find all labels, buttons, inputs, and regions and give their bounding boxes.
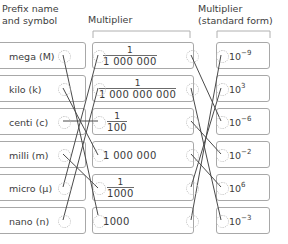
connector-node-right-3[interactable] [216, 149, 229, 162]
connector-node-mid-left-3[interactable] [93, 149, 106, 162]
connector-node-mid-left-1[interactable] [93, 83, 106, 96]
connector-node-left-2[interactable] [58, 116, 71, 129]
connector-node-right-1[interactable] [216, 83, 229, 96]
connector-node-mid-right-1[interactable] [186, 83, 199, 96]
connector-node-right-2[interactable] [216, 116, 229, 129]
matching-lines [0, 0, 288, 244]
connector-node-mid-left-5[interactable] [93, 215, 106, 228]
connector-node-left-4[interactable] [58, 182, 71, 195]
matching-worksheet: Prefix name and symbol Multiplier Multip… [0, 0, 288, 244]
connector-node-left-3[interactable] [58, 149, 71, 162]
connector-node-left-5[interactable] [58, 215, 71, 228]
connector-node-mid-left-2[interactable] [93, 116, 106, 129]
connector-node-mid-right-4[interactable] [186, 182, 199, 195]
connector-node-right-0[interactable] [216, 50, 229, 63]
connector-node-right-5[interactable] [216, 215, 229, 228]
connector-node-left-0[interactable] [58, 50, 71, 63]
connector-node-mid-right-3[interactable] [186, 149, 199, 162]
connector-node-mid-left-4[interactable] [93, 182, 106, 195]
connector-node-right-4[interactable] [216, 182, 229, 195]
connector-node-mid-right-2[interactable] [186, 116, 199, 129]
connector-node-mid-left-0[interactable] [93, 50, 106, 63]
connector-node-mid-right-5[interactable] [186, 215, 199, 228]
connector-node-left-1[interactable] [58, 83, 71, 96]
connector-node-mid-right-0[interactable] [186, 50, 199, 63]
